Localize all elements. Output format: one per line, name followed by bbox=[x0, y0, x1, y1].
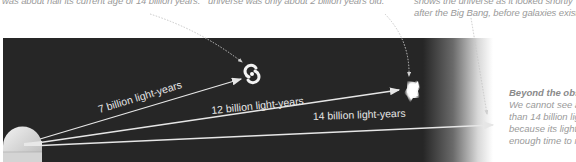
young-galaxy-icon bbox=[404, 78, 421, 103]
diagram-graphics bbox=[0, 0, 576, 162]
side-note-line: than 14 billion lig bbox=[509, 111, 576, 123]
side-note-title: Beyond the obs bbox=[509, 87, 576, 99]
side-note-line: We cannot see a bbox=[509, 99, 576, 111]
galaxy-icon bbox=[245, 65, 259, 82]
side-note-line: because its light bbox=[509, 123, 576, 135]
observable-limit-note: Beyond the obs We cannot see a than 14 b… bbox=[509, 87, 576, 147]
side-note-line: enough time to re bbox=[509, 135, 576, 147]
observatory-icon bbox=[3, 127, 42, 162]
pointer-lines bbox=[150, 14, 487, 114]
